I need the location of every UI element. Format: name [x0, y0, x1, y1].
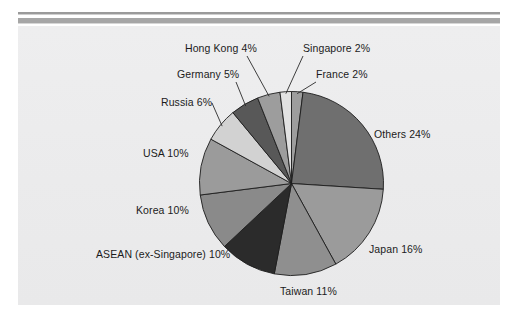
leader-line-russia	[212, 103, 222, 126]
pie-label-usa: USA 10%	[143, 147, 189, 159]
pie-chart-svg	[0, 0, 515, 326]
pie-label-others: Others 24%	[374, 128, 430, 140]
pie-label-russia: Russia 6%	[161, 96, 212, 108]
leader-line-germany	[236, 82, 246, 106]
pie-label-france: France 2%	[316, 68, 368, 80]
figure-root: Hong Kong 4% Singapore 2% Germany 5% Fra…	[0, 0, 515, 326]
pie-chart	[0, 0, 515, 326]
pie-label-asean: ASEAN (ex-Singapore) 10%	[96, 248, 230, 260]
pie-label-hong-kong: Hong Kong 4%	[185, 42, 257, 54]
pie-label-singapore: Singapore 2%	[303, 42, 370, 54]
leader-line-hong-kong	[247, 56, 269, 96]
pie-label-taiwan: Taiwan 11%	[280, 285, 337, 297]
leader-line-france	[297, 82, 316, 94]
pie-slice-others	[292, 92, 384, 189]
pie-label-germany: Germany 5%	[177, 68, 239, 80]
pie-label-japan: Japan 16%	[369, 243, 422, 255]
leader-line-singapore	[286, 56, 303, 94]
pie-label-korea: Korea 10%	[136, 204, 189, 216]
